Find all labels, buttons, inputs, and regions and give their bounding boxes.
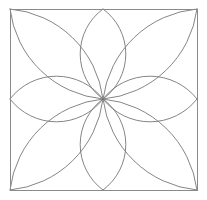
rosette-drawing [0, 0, 207, 200]
rosette-figure [0, 0, 207, 200]
